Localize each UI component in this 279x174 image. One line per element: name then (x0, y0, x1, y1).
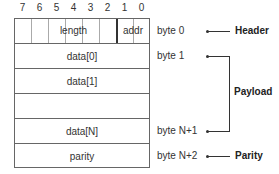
parity-connector (208, 156, 230, 157)
header-connector (208, 31, 230, 32)
bit-6: 6 (31, 2, 48, 13)
parity-row: parity (15, 144, 149, 169)
byte-1-label: byte 1 (157, 50, 184, 61)
bit-1: 1 (116, 2, 133, 13)
payload-connector-bottom (208, 131, 230, 132)
bit-divider (31, 19, 32, 43)
packet-frame: length addr data[0] data[1] data[N] pari… (14, 18, 150, 168)
byte-0-label: byte 0 (157, 25, 184, 36)
data-0-row: data[0] (15, 44, 149, 69)
data-1-row: data[1] (15, 69, 149, 94)
bit-7: 7 (14, 2, 31, 13)
ellipsis-row (15, 94, 149, 119)
length-field: length (48, 19, 99, 43)
byte-n2-label: byte N+2 (157, 150, 197, 161)
bit-4: 4 (65, 2, 82, 13)
parity-section-label: Parity (235, 150, 263, 161)
bit-3: 3 (82, 2, 99, 13)
payload-bracket (229, 56, 230, 131)
header-section-label: Header (235, 25, 269, 36)
addr-field: addr (117, 19, 149, 43)
bit-0: 0 (133, 2, 150, 13)
data-n-row: data[N] (15, 119, 149, 144)
header-byte-row: length addr (15, 19, 149, 44)
payload-connector-top (208, 56, 230, 57)
payload-section-label: Payload (234, 86, 272, 97)
bit-5: 5 (48, 2, 65, 13)
byte-n1-label: byte N+1 (157, 125, 197, 136)
bit-2: 2 (99, 2, 116, 13)
bit-divider (99, 19, 100, 43)
